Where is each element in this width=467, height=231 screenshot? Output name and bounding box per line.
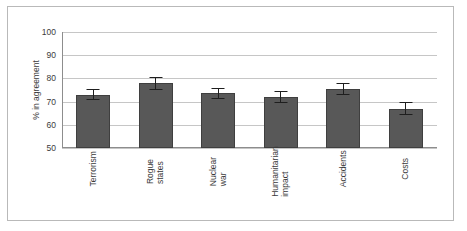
error-bar-cap-top [149, 77, 162, 78]
bar-slot [62, 32, 125, 148]
error-bar-cap-bottom [337, 94, 350, 95]
x-axis-label-text: Nuclear war [209, 156, 228, 185]
error-bar-cap-bottom [274, 102, 287, 103]
error-bar [212, 88, 225, 98]
x-axis-label-text: Rogue states [146, 159, 165, 184]
x-axis-label: Nuclear war [188, 152, 248, 153]
x-axis-label: Accidents [313, 152, 373, 153]
y-axis-tick-label: 60 [47, 121, 56, 130]
error-bar-cap-top [87, 89, 100, 90]
x-axis-label: Humanitarian impact [251, 152, 311, 153]
error-bar-cap-bottom [149, 89, 162, 90]
error-bar-cap-bottom [399, 114, 412, 115]
y-axis-tick-label: 80 [47, 74, 56, 83]
error-bar [337, 83, 350, 95]
plot-area: 5060708090100 [62, 32, 437, 148]
bar[interactable] [201, 93, 235, 148]
error-bar-cap-top [399, 102, 412, 103]
y-axis-title: % in agreement [30, 32, 42, 148]
bar-slot [125, 32, 188, 148]
x-axis-label: Costs [376, 152, 436, 153]
error-bar [274, 91, 287, 103]
x-axis-label-text: Humanitarian impact [271, 146, 290, 197]
y-axis-title-label: % in agreement [31, 60, 41, 120]
bar-slot [375, 32, 438, 148]
error-bar [87, 89, 100, 101]
x-axis-label-text: Accidents [338, 150, 348, 187]
y-axis-tick-label: 90 [47, 51, 56, 60]
error-bar [149, 77, 162, 90]
error-bar-cap-top [274, 91, 287, 92]
chart-figure: % in agreement 5060708090100 TerrorismRo… [0, 0, 467, 231]
error-bar-cap-bottom [87, 99, 100, 100]
bar[interactable] [264, 97, 298, 148]
error-bar-cap-top [212, 88, 225, 89]
y-axis-tick-label: 100 [42, 28, 56, 37]
bar[interactable] [326, 89, 360, 148]
bar-slot [187, 32, 250, 148]
error-bar-cap-top [337, 83, 350, 84]
bar[interactable] [139, 83, 173, 148]
bar-slot [250, 32, 313, 148]
error-bar [399, 102, 412, 115]
bar-slot [312, 32, 375, 148]
bar[interactable] [76, 95, 110, 148]
gridline [62, 148, 437, 149]
bar-series [62, 32, 437, 148]
error-bar-cap-bottom [212, 98, 225, 99]
x-axis-label: Rogue states [126, 152, 186, 153]
y-axis-tick-label: 70 [47, 97, 56, 106]
x-axis-label: Terrorism [63, 152, 123, 153]
x-axis-label-text: Terrorism [88, 151, 98, 186]
x-axis-label-text: Costs [401, 158, 411, 180]
y-axis-tick-label: 50 [47, 144, 56, 153]
